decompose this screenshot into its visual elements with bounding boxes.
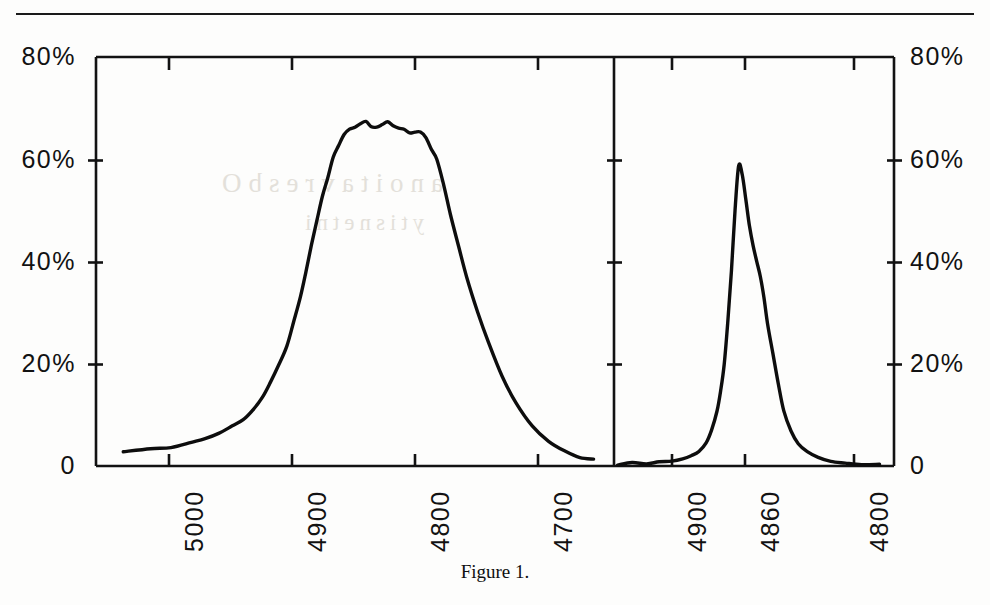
- right-y-tick-label-60: 60%: [910, 147, 965, 172]
- right-x-tick-label-4900: 4900: [685, 490, 710, 552]
- right-panel-x-ticks-top: [672, 57, 854, 70]
- left-x-tick-label-4900: 4900: [305, 490, 330, 552]
- figure-caption: Figure 1.: [0, 561, 990, 583]
- right-panel-frame: [614, 57, 894, 466]
- left-x-tick-label-4800: 4800: [428, 490, 453, 552]
- left-panel-x-ticks-bottom: [169, 454, 538, 466]
- right-y-tick-label-20: 20%: [910, 351, 965, 376]
- left-y-tick-label-40: 40%: [21, 249, 76, 274]
- left-y-tick-label-0: 0: [61, 453, 76, 478]
- right-x-tick-label-4800: 4800: [867, 490, 892, 552]
- right-y-tick-label-40: 40%: [910, 249, 965, 274]
- left-panel-frame: [96, 57, 614, 466]
- left-y-tick-label-80: 80%: [21, 44, 76, 69]
- right-y-tick-label-80: 80%: [910, 44, 965, 69]
- left-x-tick-label-4700: 4700: [551, 490, 576, 552]
- left-panel-x-ticks-top: [169, 57, 538, 70]
- right-y-tick-label-0: 0: [910, 453, 925, 478]
- left-x-tick-label-5000: 5000: [182, 490, 207, 552]
- left-y-tick-label-20: 20%: [21, 351, 76, 376]
- dual-panel-line-chart: [0, 0, 990, 605]
- left-y-tick-label-60: 60%: [21, 147, 76, 172]
- left-profile-curve: [123, 121, 593, 459]
- panel-divider-axis: [607, 57, 622, 466]
- right-x-tick-label-4860: 4860: [758, 490, 783, 552]
- figure-container: anoitavresbO ytisnetni: [0, 0, 990, 605]
- right-profile-curve: [618, 164, 880, 465]
